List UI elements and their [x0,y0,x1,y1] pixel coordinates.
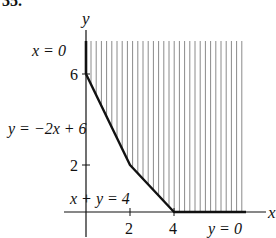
y-tick-label-6: 6 [70,66,78,83]
label-y-eq-neg2x-plus-6: y = −2x + 6 [6,120,87,138]
x-tick-label-2: 2 [125,220,133,237]
label-x-plus-y-eq-4: x + y = 4 [69,190,130,208]
feasible-region-graph: 35. y x 2 4 2 6 x = 0 y = −2x + 6 x + y … [0,0,276,238]
problem-number: 35. [2,0,22,9]
y-axis-label: y [80,9,90,28]
region-hatching [91,41,242,212]
x-axis-label: x [267,203,276,222]
label-x-eq-0: x = 0 [31,42,66,59]
y-tick-label-2: 2 [70,157,78,174]
label-y-eq-0: y = 0 [206,220,242,238]
x-tick-label-4: 4 [169,220,177,237]
